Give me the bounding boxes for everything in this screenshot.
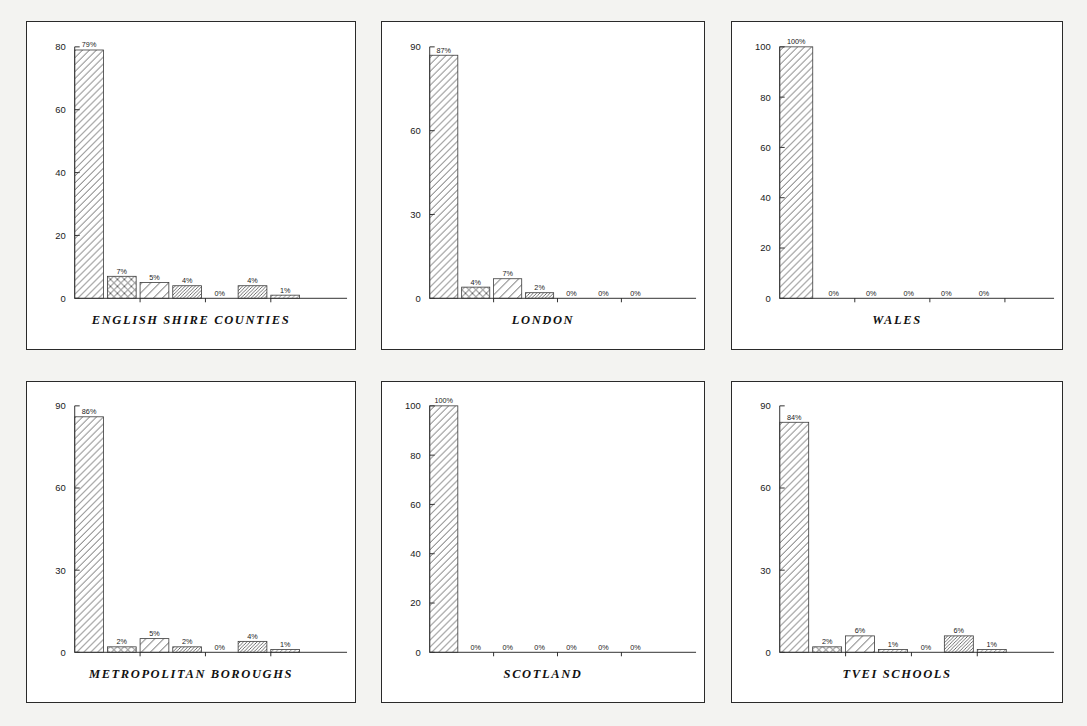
chart-panel: 02040608079%7%5%4%0%4%1%ENGLISH SHIRE CO… (26, 21, 356, 350)
bar-value-label: 100% (787, 37, 806, 46)
chart-title: LONDON (382, 313, 704, 328)
bar-value-label: 100% (434, 396, 453, 405)
y-tick-label: 60 (760, 142, 771, 153)
chart-title: TVEI SCHOOLS (732, 667, 1062, 682)
bar (977, 650, 1006, 653)
bar (140, 639, 169, 653)
chart-canvas: 02040608079%7%5%4%0%4%1% (27, 22, 355, 349)
bar (879, 650, 908, 653)
chart-title: ENGLISH SHIRE COUNTIES (27, 313, 355, 328)
y-tick-label: 0 (766, 647, 771, 658)
bar-value-label: 0% (921, 643, 932, 652)
bar (430, 406, 458, 652)
bar-value-label: 0% (566, 643, 577, 652)
bar (271, 295, 300, 298)
chart-title: SCOTLAND (382, 667, 704, 682)
bar (238, 286, 267, 299)
y-tick-label: 60 (55, 482, 66, 493)
bar-value-label: 0% (534, 643, 545, 652)
bar (430, 55, 458, 298)
bar (944, 636, 973, 652)
chart-panel: 030609084%2%6%1%0%6%1%TVEI SCHOOLS (731, 381, 1063, 703)
bar (462, 287, 490, 298)
y-tick-label: 20 (410, 597, 421, 608)
y-tick-label: 40 (760, 192, 771, 203)
bar-value-label: 0% (502, 643, 513, 652)
bar-value-label: 84% (787, 413, 802, 422)
y-tick-label: 30 (410, 209, 421, 220)
bar-value-label: 0% (630, 643, 641, 652)
bar-value-label: 6% (855, 626, 866, 635)
bar-value-label: 0% (829, 289, 840, 298)
bar-value-label: 4% (182, 276, 193, 285)
chart-panel: 030609087%4%7%2%0%0%0%LONDON (381, 21, 705, 350)
bar (846, 636, 875, 652)
chart-title: METROPOLITAN BOROUGHS (27, 667, 355, 682)
bar-value-label: 1% (987, 640, 998, 649)
bar (813, 647, 842, 652)
bar (107, 647, 136, 652)
bar (107, 276, 136, 298)
bar-value-label: 5% (149, 629, 160, 638)
y-tick-label: 20 (55, 230, 66, 241)
bar-value-label: 7% (117, 267, 128, 276)
chart-title: WALES (732, 313, 1062, 328)
chart-canvas: 030609086%2%5%2%0%4%1% (27, 382, 355, 702)
y-tick-label: 100 (405, 400, 421, 411)
y-tick-label: 30 (760, 565, 771, 576)
chart-canvas: 020406080100100%0%0%0%0%0% (732, 22, 1062, 349)
bar (75, 50, 104, 298)
bar-value-label: 1% (280, 286, 291, 295)
bar (271, 650, 300, 653)
chart-canvas: 030609087%4%7%2%0%0%0% (382, 22, 704, 349)
bar (173, 647, 202, 652)
bar (140, 283, 169, 299)
y-tick-label: 80 (55, 41, 66, 52)
y-tick-label: 40 (410, 548, 421, 559)
y-tick-label: 90 (55, 400, 66, 411)
bar-value-label: 0% (470, 643, 481, 652)
y-tick-label: 0 (61, 293, 66, 304)
bar-value-label: 4% (247, 276, 258, 285)
y-tick-label: 90 (760, 400, 771, 411)
bar (173, 286, 202, 299)
bar-value-label: 0% (598, 643, 609, 652)
bar-value-label: 0% (904, 289, 915, 298)
y-tick-label: 0 (766, 293, 771, 304)
bar-value-label: 0% (979, 289, 990, 298)
y-tick-label: 90 (410, 41, 421, 52)
y-tick-label: 60 (410, 125, 421, 136)
bar-value-label: 0% (598, 289, 609, 298)
bar-value-label: 4% (247, 632, 258, 641)
bar-value-label: 1% (888, 640, 899, 649)
bar-value-label: 87% (436, 46, 451, 55)
y-tick-label: 100 (755, 41, 771, 52)
bar (238, 641, 267, 652)
bar-value-label: 86% (82, 407, 97, 416)
bar-value-label: 2% (182, 637, 193, 646)
y-tick-label: 0 (61, 647, 66, 658)
y-tick-label: 40 (55, 167, 66, 178)
chart-canvas: 030609084%2%6%1%0%6%1% (732, 382, 1062, 702)
bar-value-label: 0% (941, 289, 952, 298)
bar (526, 293, 554, 299)
y-tick-label: 60 (410, 499, 421, 510)
y-tick-label: 80 (760, 92, 771, 103)
y-tick-label: 20 (760, 242, 771, 253)
bar-value-label: 0% (215, 643, 226, 652)
bar-value-label: 2% (117, 637, 128, 646)
bar-value-label: 0% (630, 289, 641, 298)
bar-value-label: 0% (215, 289, 226, 298)
bar-value-label: 5% (149, 273, 160, 282)
y-tick-label: 60 (760, 482, 771, 493)
bar-value-label: 4% (470, 278, 481, 287)
figure-sheet: 02040608079%7%5%4%0%4%1%ENGLISH SHIRE CO… (0, 0, 1087, 726)
bar-value-label: 2% (534, 283, 545, 292)
y-tick-label: 30 (55, 565, 66, 576)
bar-value-label: 79% (82, 40, 97, 49)
bar-value-label: 0% (566, 289, 577, 298)
bar (780, 47, 813, 298)
bar (780, 422, 809, 652)
bar-value-label: 6% (954, 626, 965, 635)
bar-value-label: 1% (280, 640, 291, 649)
